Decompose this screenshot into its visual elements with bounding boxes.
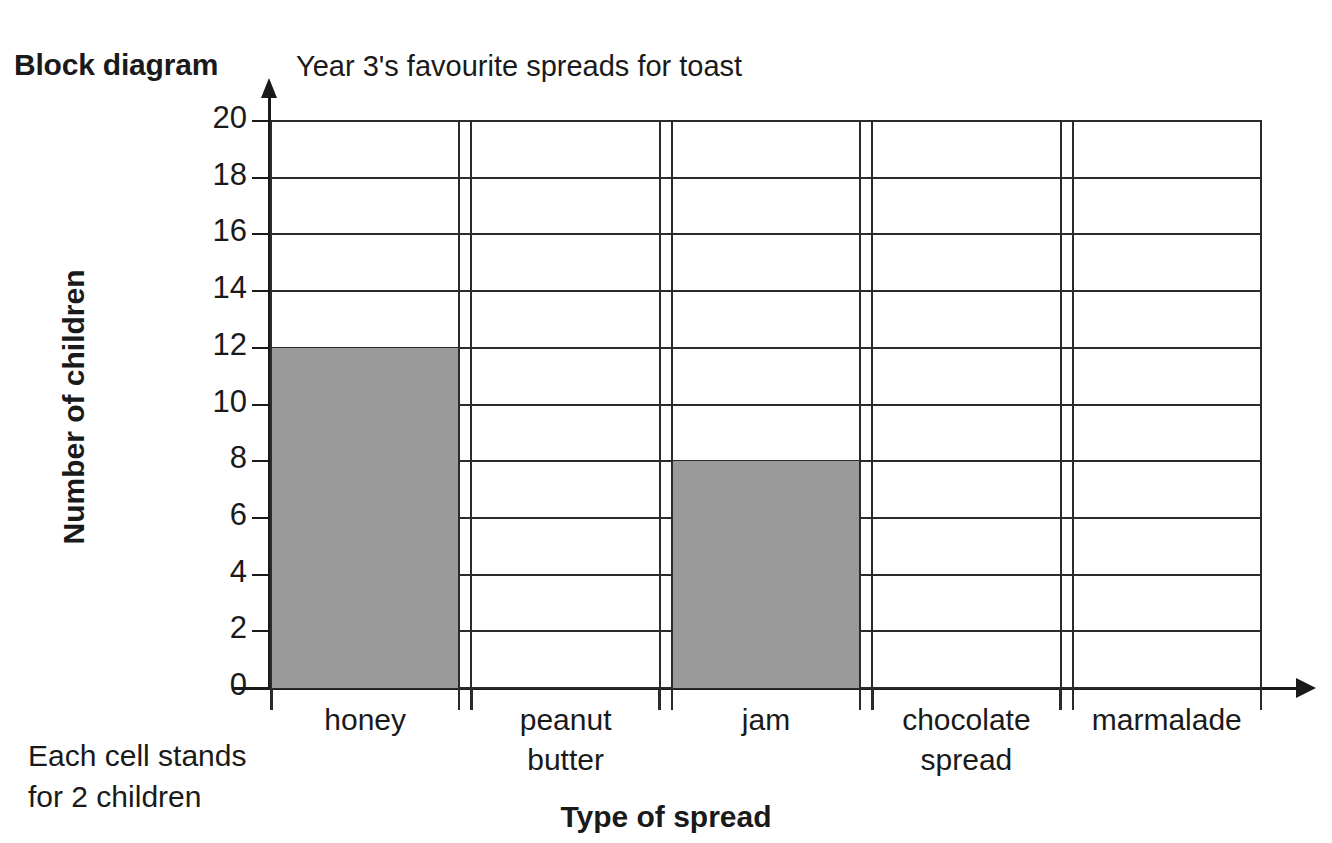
y-axis-arrow-head <box>261 78 277 98</box>
chart-column <box>470 121 660 688</box>
y-axis-tick <box>252 177 272 179</box>
y-axis-tick <box>252 404 272 406</box>
y-axis-tick <box>252 517 272 519</box>
bar <box>272 348 458 688</box>
bar <box>673 461 859 688</box>
y-axis-tick-label: 4 <box>185 554 247 590</box>
x-axis-category-label: honey <box>264 700 466 740</box>
y-axis-tick-label: 6 <box>185 497 247 533</box>
y-axis-tick-label: 20 <box>185 100 247 136</box>
y-axis-title: Number of children <box>57 237 91 577</box>
y-axis-tick-label: 12 <box>185 327 247 363</box>
block-diagram-label: Block diagram <box>14 48 218 82</box>
x-axis-category-label: chocolate spread <box>865 700 1067 780</box>
x-axis-arrow-head <box>1296 678 1316 698</box>
chart-title: Year 3's favourite spreads for toast <box>296 50 742 83</box>
y-axis-tick <box>252 687 272 689</box>
y-axis-tick <box>252 574 272 576</box>
y-axis-tick <box>252 347 272 349</box>
y-axis-tick <box>252 120 272 122</box>
y-axis-tick-label: 10 <box>185 384 247 420</box>
y-axis-tick <box>252 630 272 632</box>
plot-area <box>270 121 1262 688</box>
y-axis-tick-label: 14 <box>185 270 247 306</box>
x-axis-category-label: jam <box>665 700 867 740</box>
y-axis-tick <box>252 460 272 462</box>
y-axis-tick-label: 2 <box>185 610 247 646</box>
y-axis-tick-label: 18 <box>185 157 247 193</box>
x-axis-category-label: marmalade <box>1066 700 1268 740</box>
y-axis-tick-label: 8 <box>185 440 247 476</box>
block-diagram-figure: Block diagram Year 3's favourite spreads… <box>0 0 1332 843</box>
chart-column <box>671 121 861 688</box>
x-axis-category-label: peanut butter <box>464 700 666 780</box>
chart-column <box>270 121 460 688</box>
y-axis-tick <box>252 290 272 292</box>
chart-column <box>1072 121 1262 688</box>
x-axis-title: Type of spread <box>0 800 1332 834</box>
y-axis-tick <box>252 233 272 235</box>
y-axis-tick-label: 16 <box>185 213 247 249</box>
y-axis-tick-label: 0 <box>185 667 247 703</box>
chart-column <box>871 121 1061 688</box>
